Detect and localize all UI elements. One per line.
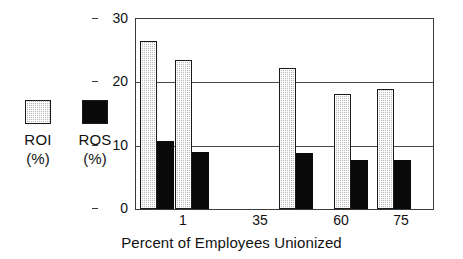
chart-figure: 0102030 1356075 Percent of Employees Uni… — [0, 0, 463, 259]
x-tick-label-75: 75 — [381, 212, 421, 228]
y-tick-mark-0 — [92, 208, 98, 209]
x-tick-label-60: 60 — [321, 212, 361, 228]
plot-area — [135, 18, 434, 210]
y-axis-tick-labels: 0102030 — [96, 18, 128, 208]
x-axis-tick-labels: 1356075 — [135, 212, 432, 232]
bar-roi-0 — [140, 41, 157, 209]
y-tick-mark-20 — [92, 81, 98, 82]
bar-ros-7 — [351, 160, 368, 209]
y-tick-mark-10 — [92, 145, 98, 146]
bar-ros-1 — [157, 141, 174, 209]
y-tick-mark-30 — [92, 18, 98, 19]
x-axis-title: Percent of Employees Unionized — [0, 234, 463, 252]
y-tick-label-10: 10 — [98, 138, 128, 152]
bar-roi-2 — [175, 60, 192, 209]
bar-roi-4 — [279, 68, 296, 209]
y-tick-label-20: 20 — [98, 74, 128, 88]
y-tick-label-0: 0 — [98, 201, 128, 215]
x-tick-label-35: 35 — [240, 212, 280, 228]
bar-ros-5 — [296, 153, 313, 209]
bar-roi-8 — [377, 89, 394, 209]
bar-ros-3 — [192, 152, 209, 209]
bar-roi-6 — [334, 94, 351, 209]
bar-ros-9 — [394, 160, 411, 209]
x-tick-label-1: 1 — [163, 212, 203, 228]
y-tick-label-30: 30 — [98, 11, 128, 25]
